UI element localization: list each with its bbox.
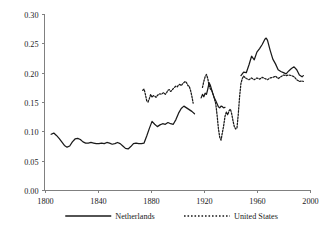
y-tick-label: 0.25 — [24, 40, 38, 49]
line-chart: 0.000.050.100.150.200.250.30 18001840188… — [0, 0, 330, 238]
y-axis-labels: 0.000.050.100.150.200.250.30 — [24, 11, 38, 196]
series-line-united-states — [244, 75, 304, 81]
x-tick-label: 2000 — [302, 197, 318, 206]
y-tick-label: 0.10 — [24, 128, 38, 137]
y-tick-label: 0.00 — [24, 187, 38, 196]
data-series-group — [51, 38, 303, 149]
legend-label-united-states: United States — [234, 212, 278, 221]
x-tick-label: 1880 — [143, 197, 159, 206]
x-tick-label: 1920 — [196, 197, 212, 206]
x-tick-label: 1960 — [249, 197, 265, 206]
x-tick-label: 1840 — [90, 197, 106, 206]
chart-figure: 0.000.050.100.150.200.250.30 18001840188… — [0, 0, 330, 238]
x-axis-labels: 180018401880192019602000 — [37, 197, 318, 206]
y-tick-label: 0.20 — [24, 70, 38, 79]
series-line-united-states — [143, 81, 193, 103]
series-line-netherlands — [51, 106, 194, 149]
y-tick-label: 0.30 — [24, 11, 38, 20]
legend-label-netherlands: Netherlands — [115, 212, 155, 221]
x-tick-label: 1800 — [37, 197, 53, 206]
series-line-netherlands — [241, 38, 303, 77]
y-tick-label: 0.15 — [24, 99, 38, 108]
chart-legend: NetherlandsUnited States — [65, 212, 278, 221]
y-tick-label: 0.05 — [24, 158, 38, 167]
